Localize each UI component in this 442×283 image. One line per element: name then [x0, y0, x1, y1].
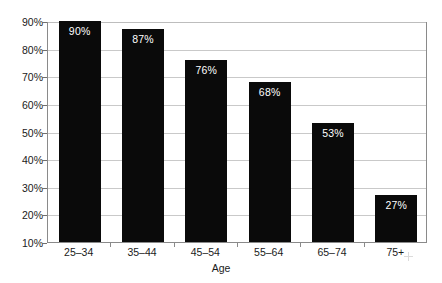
y-tick-label: 30%	[3, 183, 43, 193]
y-tick-mark	[42, 50, 47, 51]
y-tick-mark	[42, 133, 47, 134]
x-axis-title: Age	[0, 262, 442, 274]
bar-value-label: 87%	[122, 34, 164, 45]
x-tick-mark	[364, 243, 365, 247]
y-tick-mark	[42, 215, 47, 216]
x-tick-mark	[237, 243, 238, 247]
bar-chart: 90%80%70%60%50%40%30%20%10% 90%87%76%68%…	[0, 0, 442, 283]
y-tick-label: 80%	[3, 45, 43, 55]
gridline	[48, 77, 426, 78]
y-tick-mark	[42, 105, 47, 106]
plot-area: 90%87%76%68%53%27%	[47, 22, 427, 243]
x-tick-label: 35–44	[110, 246, 173, 258]
y-tick-mark	[42, 77, 47, 78]
bar: 87%	[122, 29, 164, 242]
x-tick-label: 55–64	[237, 246, 300, 258]
bar: 76%	[185, 60, 227, 242]
x-tick-mark	[110, 243, 111, 247]
gridline	[48, 50, 426, 51]
gridline	[48, 133, 426, 134]
gridline	[48, 22, 426, 23]
bar: 68%	[249, 82, 291, 242]
y-tick-label: 10%	[3, 238, 43, 248]
bar: 90%	[59, 21, 101, 242]
x-tick-label: 25–34	[47, 246, 110, 258]
bar: 53%	[312, 123, 354, 242]
y-tick-mark	[42, 22, 47, 23]
bar-value-label: 53%	[312, 128, 354, 139]
y-tick-mark	[42, 188, 47, 189]
y-axis: 90%80%70%60%50%40%30%20%10%	[0, 0, 43, 283]
y-tick-label: 20%	[3, 210, 43, 220]
bar-value-label: 90%	[59, 26, 101, 37]
y-tick-mark	[42, 243, 47, 244]
gridline	[48, 215, 426, 216]
y-tick-label: 70%	[3, 72, 43, 82]
x-tick-label: 45–54	[174, 246, 237, 258]
bar-value-label: 76%	[185, 65, 227, 76]
gridline	[48, 188, 426, 189]
bar-value-label: 27%	[375, 200, 417, 211]
bar: 27%	[375, 195, 417, 242]
x-tick-mark	[174, 243, 175, 247]
y-tick-label: 60%	[3, 100, 43, 110]
y-tick-mark	[42, 160, 47, 161]
bar-value-label: 68%	[249, 87, 291, 98]
y-tick-label: 50%	[3, 128, 43, 138]
crop-mark-icon	[404, 252, 413, 261]
x-tick-mark	[300, 243, 301, 247]
x-tick-label: 75+	[364, 246, 427, 258]
gridline	[48, 105, 426, 106]
y-tick-label: 90%	[3, 17, 43, 27]
x-tick-label: 65–74	[300, 246, 363, 258]
gridline	[48, 160, 426, 161]
y-tick-label: 40%	[3, 155, 43, 165]
